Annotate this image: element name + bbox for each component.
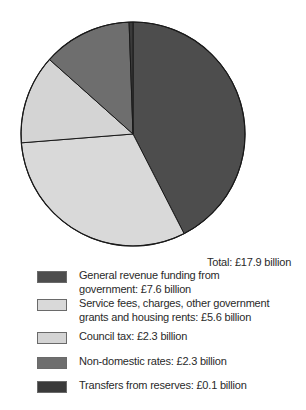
legend-label: Transfers from reserves: £0.1 billion — [79, 378, 279, 392]
legend-swatch — [37, 332, 67, 344]
legend-item-general-revenue: General revenue funding from government:… — [37, 268, 279, 296]
legend-label: Service fees, charges, other government … — [79, 296, 289, 324]
legend-label: Council tax: £2.3 billion — [79, 329, 279, 343]
legend-swatch — [37, 299, 67, 311]
legend-swatch — [37, 381, 67, 393]
legend-item-non-domestic-rates: Non-domestic rates: £2.3 billion — [37, 354, 279, 369]
legend-item-council-tax: Council tax: £2.3 billion — [37, 329, 279, 344]
legend-item-transfers-reserves: Transfers from reserves: £0.1 billion — [37, 378, 279, 393]
legend-swatch — [37, 271, 67, 283]
pie-chart — [0, 0, 306, 260]
legend-swatch — [37, 357, 67, 369]
legend-item-service-fees: Service fees, charges, other government … — [37, 296, 289, 324]
total-label: Total: £17.9 billion — [207, 256, 291, 268]
legend-label: Non-domestic rates: £2.3 billion — [79, 354, 279, 368]
legend-label: General revenue funding from government:… — [79, 268, 279, 296]
